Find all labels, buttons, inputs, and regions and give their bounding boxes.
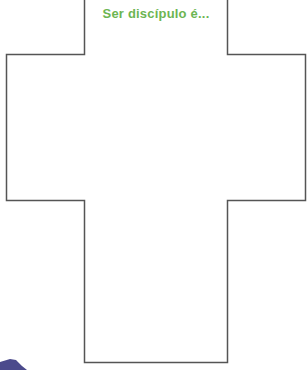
corner-illustration-fragment <box>0 0 307 370</box>
